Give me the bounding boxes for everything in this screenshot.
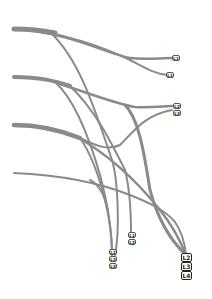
label-badge: L3 [181,262,192,271]
source-s4 [14,173,186,255]
label-badge: L1 [166,72,174,78]
label-badge: L1 [172,55,180,61]
label-badge: L2 [173,103,181,109]
label-badge: L3 [109,256,117,262]
label-badge: L4 [181,271,192,280]
label-badge: L2 [109,249,117,255]
flow-s2-t3 [60,84,172,107]
source-s1 [14,29,55,33]
label-badge: L1 [128,232,136,238]
label-badge: L2 [181,253,192,262]
flow-s1-t2 [14,29,168,75]
label-badge: L3 [173,110,181,116]
flow-s2-t5 [70,86,131,232]
flow-s2-t4 [55,82,112,255]
label-badge: L4 [109,263,117,269]
source-s3 [14,125,80,138]
label-badge: L2 [128,239,136,245]
